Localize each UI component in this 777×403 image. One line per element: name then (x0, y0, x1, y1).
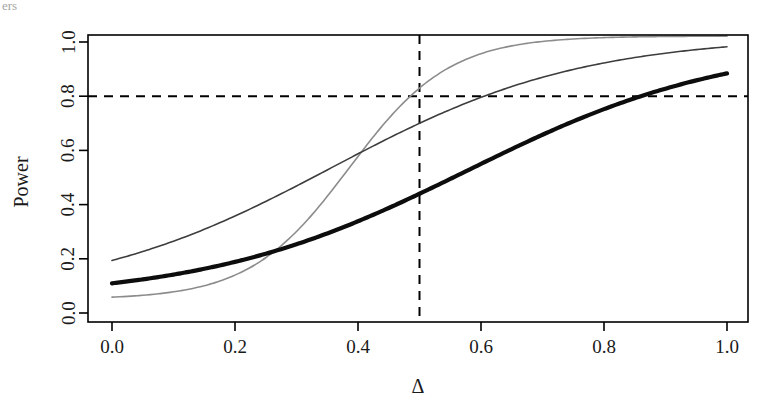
y-tick-label: 0.6 (58, 139, 79, 163)
clipped-header-text: ers (2, 0, 17, 13)
x-tick-label: 0.8 (592, 336, 616, 357)
x-tick-label: 0.0 (100, 336, 124, 357)
y-tick-label: 0.2 (58, 247, 79, 271)
power-curve-figure: ers 0.00.20.40.60.81.0 0.00.20.40.60.81.… (0, 0, 777, 403)
y-tick-label: 0.8 (58, 84, 79, 108)
y-tick-label: 1.0 (58, 30, 79, 54)
x-tick-label: 0.2 (223, 336, 247, 357)
x-tick-label: 0.4 (346, 336, 370, 357)
x-tick-label: 0.6 (469, 336, 493, 357)
x-tick-label: 1.0 (715, 336, 739, 357)
x-axis-title: Δ (412, 375, 425, 397)
chart-canvas: ers 0.00.20.40.60.81.0 0.00.20.40.60.81.… (0, 0, 777, 403)
y-tick-label: 0.0 (58, 301, 79, 325)
y-axis-title: Power (10, 156, 32, 207)
y-tick-label: 0.4 (58, 192, 79, 216)
